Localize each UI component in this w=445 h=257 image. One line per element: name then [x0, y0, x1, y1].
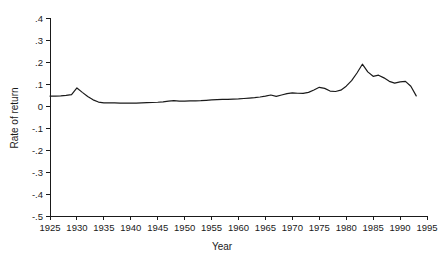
x-tick-label: 1985	[363, 222, 384, 233]
y-tick-label: .4	[35, 13, 43, 24]
y-tick-label: .3	[35, 35, 43, 46]
x-tick-label: 1930	[66, 222, 87, 233]
series-line-rate-of-return	[50, 64, 416, 103]
x-tick-label: 1955	[201, 222, 222, 233]
x-tick-label: 1960	[228, 222, 249, 233]
y-axis: .4.3.2.10-.1-.2-.3-.4-.5	[32, 13, 50, 222]
x-axis-title: Year	[212, 241, 233, 252]
y-tick-label: 0	[38, 101, 43, 112]
y-tick-label: -.5	[32, 211, 43, 222]
y-tick-label: -.4	[32, 189, 43, 200]
x-tick-label: 1980	[336, 222, 357, 233]
x-tick-label: 1945	[147, 222, 168, 233]
y-tick-label: -.2	[32, 145, 43, 156]
x-tick-label: 1970	[282, 222, 303, 233]
rate-of-return-chart: .4.3.2.10-.1-.2-.3-.4-.5 192519301935194…	[0, 0, 445, 257]
x-tick-label: 1990	[390, 222, 411, 233]
y-tick-label: -.3	[32, 167, 43, 178]
y-axis-title: Rate of return	[9, 87, 20, 148]
x-axis: 1925193019351940194519501955196019651970…	[39, 216, 437, 233]
y-tick-label: -.1	[32, 123, 43, 134]
x-tick-label: 1965	[255, 222, 276, 233]
x-tick-label: 1940	[120, 222, 141, 233]
x-tick-label: 1995	[416, 222, 437, 233]
x-tick-label: 1975	[309, 222, 330, 233]
x-tick-label: 1950	[174, 222, 195, 233]
chart-canvas: .4.3.2.10-.1-.2-.3-.4-.5 192519301935194…	[0, 0, 445, 257]
x-tick-label: 1935	[93, 222, 114, 233]
y-tick-label: .1	[35, 79, 43, 90]
x-tick-label: 1925	[39, 222, 60, 233]
y-tick-label: .2	[35, 57, 43, 68]
data-series-group	[50, 64, 416, 103]
